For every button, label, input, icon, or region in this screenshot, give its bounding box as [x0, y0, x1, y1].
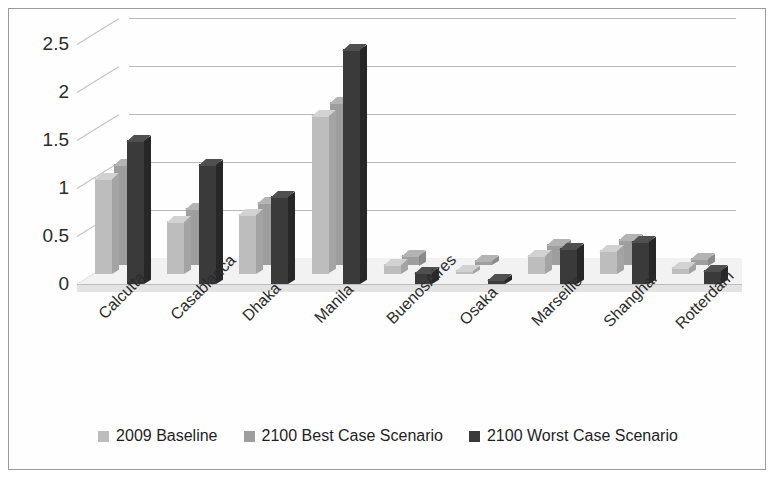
legend-item: 2009 Baseline [98, 427, 217, 445]
bar-face [239, 214, 256, 274]
legend-label: 2100 Best Case Scenario [262, 427, 443, 445]
chart-legend: 2009 Baseline2100 Best Case Scenario2100… [9, 427, 767, 445]
bar-face [95, 178, 112, 274]
legend-swatch [98, 431, 109, 442]
bar-side [360, 45, 367, 284]
plot-area: 00.511.522.5CalcuttaCasablancaDhakaManil… [9, 9, 767, 309]
bar-face [528, 255, 545, 274]
bar-dhaka-series-0 [239, 214, 256, 274]
y-axis-tick-label: 2.5 [23, 34, 69, 53]
bar-dhaka-series-2 [271, 196, 288, 284]
bar-manila-series-2 [343, 49, 360, 284]
bar-marseille-series-0 [528, 255, 545, 274]
bar-side [112, 173, 119, 273]
legend-label: 2100 Worst Case Scenario [487, 427, 678, 445]
y-axis-tick-label: 0.5 [23, 226, 69, 245]
chart-frame: 00.511.522.5CalcuttaCasablancaDhakaManil… [8, 8, 766, 470]
y-axis-tick-label: 1.5 [23, 130, 69, 149]
gridline-riser [77, 18, 120, 45]
gridline [129, 18, 736, 19]
legend-swatch [469, 431, 480, 442]
gridline-riser [77, 66, 120, 93]
bar-osaka-series-2 [488, 279, 505, 284]
bar-side [329, 111, 336, 274]
legend-label: 2009 Baseline [116, 427, 217, 445]
bar-face [600, 250, 617, 274]
bar-manila-series-0 [312, 115, 329, 273]
bar-rotterdam-series-0 [672, 267, 689, 274]
bar-side [144, 136, 151, 284]
bar-face [343, 49, 360, 284]
bar-face [127, 140, 144, 284]
bar-face [312, 115, 329, 273]
bar-osaka-series-0 [456, 270, 473, 274]
legend-swatch [244, 431, 255, 442]
legend-item: 2100 Worst Case Scenario [469, 427, 678, 445]
bar-side [256, 210, 263, 274]
y-axis-tick-label: 1 [23, 178, 69, 197]
bar-calcutta-series-2 [127, 140, 144, 284]
bar-calcutta-series-0 [95, 178, 112, 274]
bar-shanghai-series-0 [600, 250, 617, 274]
bar-side [184, 217, 191, 274]
bar-face [167, 221, 184, 274]
gridline [129, 66, 736, 67]
bar-casablanca-series-0 [167, 221, 184, 274]
bar-buenosaires-series-0 [384, 264, 401, 274]
bar-side [288, 191, 295, 284]
gridline [129, 114, 736, 115]
legend-item: 2100 Best Case Scenario [244, 427, 443, 445]
bar-face [271, 196, 288, 284]
gridline-riser [77, 114, 120, 141]
chart-page: 00.511.522.5CalcuttaCasablancaDhakaManil… [0, 0, 776, 482]
y-axis-tick-label: 0 [23, 274, 69, 293]
y-axis-tick-label: 2 [23, 82, 69, 101]
